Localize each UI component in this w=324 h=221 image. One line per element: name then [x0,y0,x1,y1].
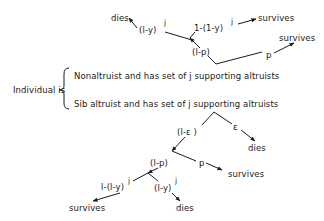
label-sib-altruist: Sib altruist and has set of j supporting… [74,100,278,109]
label-survives-bottom: survives [69,204,105,213]
label-survives-p-bottom: survives [228,170,264,179]
arrow-to-survives-bottom [93,193,120,201]
label-individual-is: Individual is [13,86,65,95]
label-fail-exp-bottom: j [175,177,177,185]
arrow-eps-dies [241,130,255,141]
label-success-prob-top: 1-(1-y) [194,24,223,33]
label-p-bottom: p [199,159,205,168]
label-dies-bottom: dies [176,204,194,213]
label-eps: ε [233,123,238,132]
label-success-exp-top: j [231,18,233,26]
label-success-exp-bottom: j [128,177,130,185]
arrow-to-survives-top [238,19,256,24]
label-not-p-bottom: (l-p) [150,159,168,168]
label-success-prob-bottom: l-(l-y) [101,183,124,192]
label-dies-top: dies [111,14,129,23]
arrow-to-dies-bottom [172,193,180,201]
label-fail-prob-bottom: (l-y) [154,184,171,193]
arrow-p-survives-bottom [206,163,222,170]
label-p-top: p [266,51,272,60]
label-dies-eps: dies [248,144,266,153]
label-not-p-top: (l-p) [192,48,210,57]
label-fail-prob-top: (l-y) [139,26,156,35]
label-fail-exp-top: j [164,19,166,27]
label-survives-top-2: survives [279,34,315,43]
label-survives-top-1: survives [258,14,294,23]
arrow-to-dies-top [129,18,137,28]
label-not-eps: (l-ε ) [177,128,197,137]
label-nonaltruist: Nonaltruist and has set of j supporting … [74,72,279,81]
arrow-p-survives-top [274,43,294,53]
